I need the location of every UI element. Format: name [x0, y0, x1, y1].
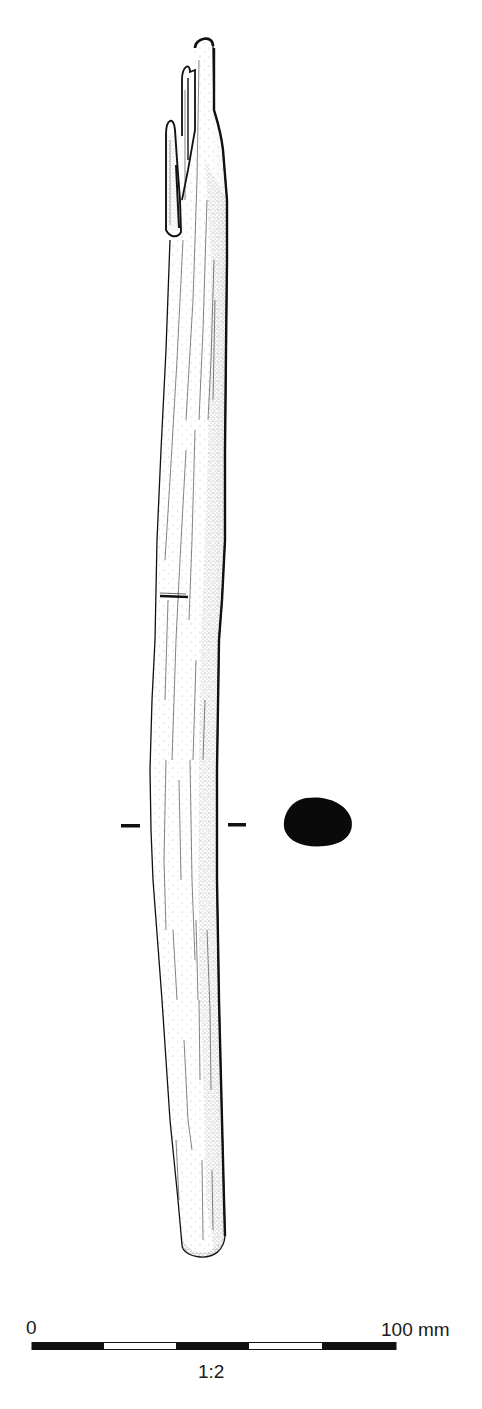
- scale-segment-1: [32, 1343, 104, 1350]
- rod-body: [140, 30, 240, 1270]
- scale-ratio-label: 1:2: [198, 1362, 224, 1381]
- scale-segment-3: [176, 1343, 249, 1350]
- scale-start-label: 0: [26, 1318, 37, 1337]
- cross-section-profile: [284, 797, 352, 846]
- section-marker-left: [121, 824, 140, 828]
- scale-bar: [32, 1343, 396, 1350]
- cut-mark: [160, 596, 188, 597]
- left-prong: [166, 121, 181, 237]
- artifact-drawing: [0, 0, 482, 1409]
- section-marker-right: [228, 823, 246, 827]
- scale-segment-5: [322, 1343, 396, 1350]
- scale-end-label: 100 mm: [381, 1320, 450, 1339]
